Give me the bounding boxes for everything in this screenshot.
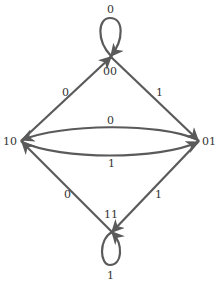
node-01-dot [196,139,200,143]
edge-label: 0 [64,188,71,201]
node-10-label: 10 [3,135,17,148]
node-00-label: 00 [103,65,117,78]
node-01-label: 01 [202,135,216,148]
state-diagram: 0 1 0 1 0 1 0 1 00 01 10 11 [0,0,222,289]
node-10-dot [20,139,24,143]
edge-label: 1 [107,269,114,282]
edge-label: 1 [108,157,115,170]
node-11-dot [110,230,114,234]
node-11-label: 11 [104,208,118,221]
edge-label: 1 [156,86,163,99]
edge-11-11: 1 [102,232,120,282]
edge-label: 0 [107,3,114,16]
edge-01-10: 0 [22,114,198,140]
edge-label: 1 [155,188,162,201]
edge-label: 0 [62,86,69,99]
node-00-dot [109,55,113,59]
edge-label: 0 [107,114,114,127]
edge-00-00: 0 [100,3,120,56]
edge-10-01: 1 [22,142,198,170]
